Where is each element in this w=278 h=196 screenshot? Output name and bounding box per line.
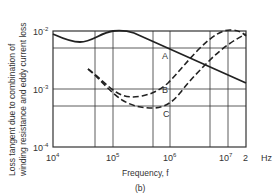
xtick-1e6: 106 — [163, 152, 177, 163]
curve-b-label: B — [162, 85, 168, 95]
curve-c — [88, 34, 246, 108]
ytick-1e-4: 10-4 — [33, 142, 49, 153]
y-axis-title: Loss tangent due to combination of windi… — [7, 22, 28, 177]
figure-caption: (b) — [135, 183, 146, 193]
xtick-2e7: 2 — [243, 153, 248, 163]
x-unit-label: Hz — [261, 153, 272, 163]
ytick-1e-3: 10-3 — [33, 84, 49, 95]
xtick-1e7: 107 — [219, 152, 233, 163]
loss-tangent-chart: A B C 10-2 10-3 10-4 104 105 106 107 2 H… — [0, 0, 278, 196]
gridlines — [53, 31, 246, 147]
curve-a — [53, 31, 246, 83]
curve-a-label: A — [162, 51, 168, 61]
ytick-1e-2: 10-2 — [33, 26, 49, 37]
y-axis-title-line1: Loss tangent due to combination of — [7, 43, 17, 176]
xtick-1e5: 105 — [106, 152, 120, 163]
plot-area — [53, 31, 246, 147]
curve-c-label: C — [163, 109, 170, 119]
x-axis-title: Frequency, f — [122, 168, 169, 178]
y-axis-title-line2: winding resistance and eddy current loss — [18, 22, 28, 177]
xtick-1e4: 104 — [46, 152, 60, 163]
